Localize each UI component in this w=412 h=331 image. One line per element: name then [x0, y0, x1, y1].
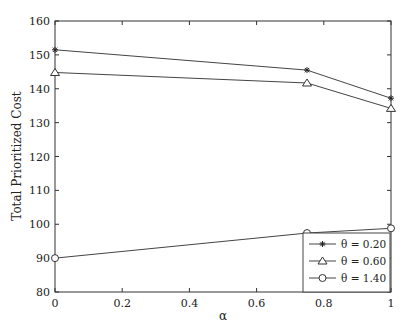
circle-marker-icon [319, 275, 326, 282]
legend: θ = 0.20θ = 0.60θ = 1.40 [303, 233, 390, 292]
legend-label: θ = 0.60 [341, 255, 386, 267]
x-axis-label: α [219, 309, 227, 323]
y-tick-label: 130 [29, 117, 50, 130]
star-marker-icon [320, 241, 326, 247]
legend-label: θ = 1.40 [341, 272, 386, 284]
x-tick-label: 0 [52, 297, 59, 310]
line-chart: 00.20.40.60.818090100110120130140150160 … [0, 0, 412, 331]
data-series [51, 47, 396, 262]
x-tick-label: 0.4 [181, 297, 199, 310]
circle-marker-icon [388, 225, 395, 232]
star-marker-icon [388, 95, 394, 101]
star-marker-icon [52, 47, 58, 53]
y-tick-label: 90 [36, 252, 50, 265]
y-tick-label: 100 [29, 218, 50, 231]
y-tick-label: 110 [29, 184, 50, 197]
x-tick-label: 1 [388, 297, 395, 310]
triangle-marker-icon [51, 68, 60, 75]
circle-marker-icon [52, 255, 59, 262]
y-axis-label: Total Prioritized Cost [10, 91, 24, 221]
y-tick-label: 160 [29, 15, 50, 28]
y-tick-label: 120 [29, 151, 50, 164]
series-line [51, 68, 396, 111]
y-tick-label: 150 [29, 49, 50, 62]
x-tick-label: 0.2 [113, 297, 131, 310]
star-marker-icon [304, 67, 310, 73]
x-tick-label: 0.8 [315, 297, 333, 310]
y-tick-label: 140 [29, 83, 50, 96]
x-tick-label: 0.6 [248, 297, 266, 310]
y-tick-label: 80 [36, 286, 50, 299]
legend-label: θ = 0.20 [341, 238, 386, 250]
